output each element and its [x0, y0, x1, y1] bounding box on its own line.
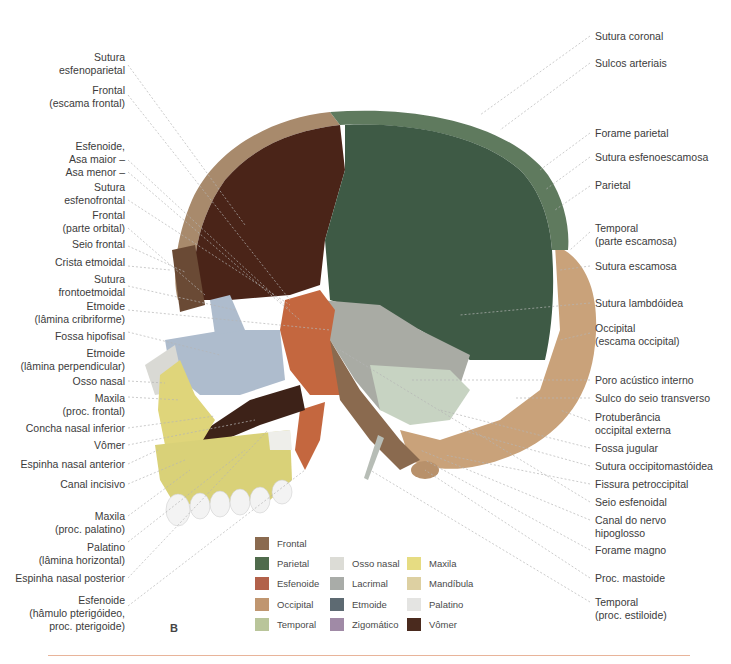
legend-label: Zigomático: [352, 619, 398, 630]
legend-swatch: [255, 577, 269, 590]
label-line: Sulcos arteriais: [595, 57, 667, 70]
label-line: Sutura coronal: [595, 30, 663, 43]
label-line: Sutura: [58, 273, 125, 286]
ethmoid-crista: [210, 295, 245, 335]
label-line: Sutura lambdóidea: [595, 297, 683, 310]
legend-label: Lacrimal: [352, 578, 388, 589]
legend-item-maxila: Maxila: [407, 556, 456, 570]
label-protuberancia-occipital-externa: Protuberância occipital externa: [595, 411, 671, 437]
label-palatino-horizontal: Palatino (lâmina horizontal): [39, 541, 125, 567]
label-line: Sulco do seio transverso: [595, 392, 710, 405]
label-crista-etmoidal: Crista etmoidal: [55, 256, 125, 269]
label-maxila-palatino: Maxila (proc. palatino): [55, 510, 125, 536]
legend-label: Temporal: [277, 619, 316, 630]
bottom-rule: [48, 655, 690, 656]
legend-swatch: [330, 557, 344, 570]
legend-swatch: [255, 537, 269, 550]
legend-swatch: [330, 577, 344, 590]
label-line: (proc. frontal): [63, 405, 125, 418]
label-line: (proc. palatino): [55, 523, 125, 536]
label-forame-magno: Forame magno: [595, 544, 666, 557]
label-line: (parte orbital): [63, 222, 125, 235]
label-frontal-orbital: Frontal (parte orbital): [63, 209, 125, 235]
label-frontal-escama: Frontal (escama frontal): [49, 84, 125, 110]
label-line: (escama frontal): [49, 97, 125, 110]
label-line: Temporal: [595, 222, 677, 235]
label-sutura-occipitomastoidea: Sutura occipitomastóidea: [595, 460, 713, 473]
label-esfenoide-pterigoide: Esfenoide (hâmulo pterigóideo, proc. pte…: [29, 594, 125, 633]
label-line: Palatino: [39, 541, 125, 554]
legend-item-parietal: Parietal: [255, 556, 309, 570]
label-line: Frontal: [63, 209, 125, 222]
label-line: Temporal: [595, 596, 667, 609]
label-line: Frontal: [49, 84, 125, 97]
legend-swatch: [407, 598, 421, 611]
label-canal-incisivo: Canal incisivo: [60, 478, 125, 491]
label-sutura-escamosa: Sutura escamosa: [595, 260, 677, 273]
legend-label: Occipital: [277, 599, 313, 610]
label-fossa-jugular: Fossa jugular: [595, 442, 658, 455]
legend-swatch: [330, 618, 344, 631]
label-line: Esfenoide,: [65, 140, 125, 153]
label-line: Asa menor –: [65, 166, 125, 179]
label-line: Proc. mastoide: [595, 572, 665, 585]
label-esfenoide-asas: Esfenoide, Asa maior – Asa menor –: [65, 140, 125, 179]
legend-item-temporal: Temporal: [255, 617, 316, 631]
label-proc-mastoide: Proc. mastoide: [595, 572, 665, 585]
legend-swatch: [407, 557, 421, 570]
bone-color-legend: Frontal Parietal Esfenoide Occipital Tem…: [255, 536, 485, 632]
legend-item-vomer: Vômer: [407, 617, 457, 631]
label-line: frontoetmoidal: [58, 286, 125, 299]
label-line: (parte escamosa): [595, 235, 677, 248]
label-temporal-escamosa: Temporal (parte escamosa): [595, 222, 677, 248]
label-line: Seio esfenoidal: [595, 496, 667, 509]
label-espinha-nasal-posterior: Espinha nasal posterior: [15, 572, 125, 585]
legend-swatch: [255, 598, 269, 611]
label-line: Etmoide: [35, 300, 125, 313]
label-seio-esfenoidal: Seio esfenoidal: [595, 496, 667, 509]
label-line: Maxila: [55, 510, 125, 523]
label-sulcos-arteriais: Sulcos arteriais: [595, 57, 667, 70]
label-line: Canal do nervo: [595, 514, 666, 527]
legend-label: Mandíbula: [429, 578, 473, 589]
label-line: (escama occipital): [595, 335, 680, 348]
frontal-bone: [194, 125, 345, 300]
label-line: Canal incisivo: [60, 478, 125, 491]
label-line: Concha nasal inferior: [26, 422, 125, 435]
label-etmoide-perpendicular: Etmoide (lâmina perpendicular): [21, 347, 125, 373]
legend-swatch: [255, 618, 269, 631]
label-line: (hâmulo pterigóideo,: [29, 607, 125, 620]
label-line: Etmoide: [21, 347, 125, 360]
label-fissura-petroccipital: Fissura petroccipital: [595, 478, 688, 491]
legend-item-esfenoide: Esfenoide: [255, 576, 319, 590]
label-line: Sutura esfenoescamosa: [595, 151, 708, 164]
label-seio-frontal: Seio frontal: [72, 238, 125, 251]
legend-label: Vômer: [429, 619, 457, 630]
label-osso-nasal: Osso nasal: [72, 375, 125, 388]
legend-item-mandibula: Mandíbula: [407, 576, 473, 590]
legend-item-lacrimal: Lacrimal: [330, 576, 388, 590]
legend-item-osso-nasal: Osso nasal: [330, 556, 400, 570]
label-espinha-nasal-anterior: Espinha nasal anterior: [21, 458, 125, 471]
label-line: Espinha nasal anterior: [21, 458, 125, 471]
label-line: Protuberância: [595, 411, 671, 424]
legend-swatch: [407, 618, 421, 631]
palatine-bone: [268, 430, 292, 450]
label-line: Fossa jugular: [595, 442, 658, 455]
legend-item-etmoide: Etmoide: [330, 597, 387, 611]
panel-letter: B: [170, 622, 178, 634]
label-sutura-esfenoescamosa: Sutura esfenoescamosa: [595, 151, 708, 164]
label-line: Espinha nasal posterior: [15, 572, 125, 585]
label-line: Maxila: [63, 392, 125, 405]
label-canal-nervo-hipoglosso: Canal do nervo hipoglosso: [595, 514, 666, 540]
legend-swatch: [330, 598, 344, 611]
label-concha-nasal-inferior: Concha nasal inferior: [26, 422, 125, 435]
legend-label: Osso nasal: [352, 558, 400, 569]
label-line: Vômer: [94, 439, 125, 452]
label-line: (lâmina perpendicular): [21, 360, 125, 373]
label-occipital-escama: Occipital (escama occipital): [595, 322, 680, 348]
label-sutura-coronal: Sutura coronal: [595, 30, 663, 43]
legend-item-frontal: Frontal: [255, 536, 307, 550]
skull-sagittal-section-figure: Sutura esfenoparietal Frontal (escama fr…: [0, 0, 731, 664]
label-sulco-seio-transverso: Sulco do seio transverso: [595, 392, 710, 405]
